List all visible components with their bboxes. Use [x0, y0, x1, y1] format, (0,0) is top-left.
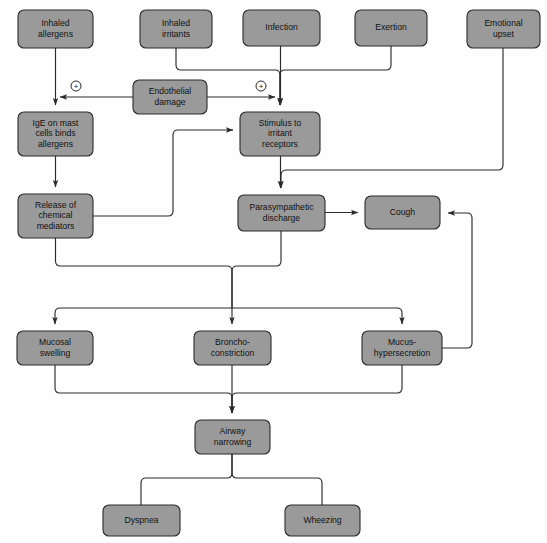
flowchart-canvas: ++ InhaledallergensInhaledirritantsInfec… — [0, 0, 547, 543]
edge-release-to-stimulus — [93, 130, 233, 216]
marker-plus_right: + — [256, 81, 266, 91]
node-label-line: Cough — [390, 207, 416, 217]
plus-sign-icon: + — [74, 82, 79, 91]
node-label-line: constriction — [211, 348, 255, 358]
edge-parasympathetic-down-merge — [232, 231, 281, 308]
node-label-line: Endothelial — [149, 86, 192, 96]
node-airway_narrowing[interactable]: Airwaynarrowing — [195, 420, 270, 454]
node-label-line: Emotional — [484, 18, 522, 28]
node-mucus_hypersecretion[interactable]: Mucus-hypersecretion — [362, 331, 442, 365]
node-label-line: irritant — [268, 128, 292, 138]
node-label-line: receptors — [262, 139, 298, 149]
node-label-line: narrowing — [214, 437, 252, 447]
node-infection[interactable]: Infection — [243, 10, 320, 46]
node-emotional_upset[interactable]: Emotionalupset — [467, 10, 540, 48]
node-label-line: cells binds — [35, 128, 75, 138]
edge-mucus-to-airway — [232, 365, 402, 413]
edge-release-down-merge — [56, 238, 233, 308]
plus-sign-icon: + — [259, 82, 264, 91]
node-inhaled_irritants[interactable]: Inhaledirritants — [140, 10, 212, 48]
node-label-line: Mucus- — [388, 337, 416, 347]
node-mucosal_swelling[interactable]: Mucosalswelling — [17, 331, 93, 365]
edge-mucus-to-cough-feedback — [442, 213, 472, 348]
edge-merge-to-mucus — [232, 308, 402, 324]
node-label-line: Mucosal — [39, 337, 71, 347]
node-label-line: Inhaled — [162, 18, 190, 28]
node-exertion[interactable]: Exertion — [355, 10, 427, 46]
node-release_mediators[interactable]: Release ofchemicalmediators — [18, 194, 93, 238]
node-ige_mast_cells[interactable]: IgE on mastcells bindsallergens — [18, 112, 93, 156]
node-label-line: Release of — [35, 200, 77, 210]
node-label-line: allergens — [38, 29, 73, 39]
node-label-line: irritants — [162, 29, 190, 39]
node-label-line: swelling — [40, 348, 71, 358]
edge-airway-to-wheezing — [232, 454, 322, 505]
edge-exertion-to-stimulus — [280, 46, 391, 105]
node-label-line: Broncho- — [215, 337, 250, 347]
node-label-line: mediators — [37, 221, 75, 231]
node-label-line: upset — [493, 29, 515, 39]
edge-mucosal-to-airway — [55, 365, 232, 413]
edge-merge-to-mucosal — [55, 308, 232, 324]
node-endothelial_damage[interactable]: Endothelialdamage — [133, 80, 207, 114]
asthma-pathophysiology-flowchart: ++ InhaledallergensInhaledirritantsInfec… — [0, 0, 547, 543]
marker-plus_left: + — [71, 81, 81, 91]
node-bronchoconstriction[interactable]: Broncho-constriction — [194, 331, 271, 365]
node-label-line: Dyspnea — [125, 515, 159, 525]
node-cough[interactable]: Cough — [365, 196, 440, 229]
edge-airway-to-dyspnea — [141, 454, 232, 505]
node-dyspnea[interactable]: Dyspnea — [103, 505, 180, 536]
node-label-line: IgE on mast — [33, 118, 79, 128]
node-wheezing[interactable]: Wheezing — [285, 505, 360, 536]
node-label-line: Stimulus to — [259, 118, 302, 128]
node-label-line: Wheezing — [303, 515, 341, 525]
node-label-line: chemical — [39, 210, 73, 220]
node-label-line: Airway — [220, 426, 246, 436]
node-label-line: Parasympathetic — [249, 202, 314, 212]
node-parasympathetic[interactable]: Parasympatheticdischarge — [238, 195, 325, 231]
node-stimulus_irritant[interactable]: Stimulus toirritantreceptors — [240, 112, 320, 156]
node-label-line: hypersecretion — [374, 348, 431, 358]
node-layer: InhaledallergensInhaledirritantsInfectio… — [17, 10, 540, 536]
node-label-line: Inhaled — [41, 18, 69, 28]
node-label-line: damage — [154, 97, 185, 107]
node-label-line: discharge — [263, 213, 300, 223]
node-label-line: Infection — [265, 22, 298, 32]
node-label-line: Exertion — [375, 22, 407, 32]
node-label-line: allergens — [38, 139, 73, 149]
node-inhaled_allergens[interactable]: Inhaledallergens — [18, 10, 93, 48]
